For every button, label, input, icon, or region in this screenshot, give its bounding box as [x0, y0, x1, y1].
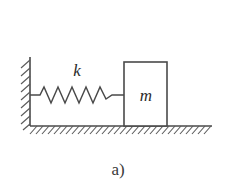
mass-label: m: [140, 86, 152, 105]
wall-hatched-icon: [21, 57, 30, 130]
figure-container: k m a): [0, 0, 231, 185]
spring-polyline: [30, 87, 124, 103]
ground-hatch-group: [30, 126, 211, 134]
spring-coil-icon: [30, 87, 124, 103]
figure-caption: a): [111, 160, 124, 179]
wall-hatch-group: [21, 60, 30, 130]
ground-hatched-icon: [30, 126, 212, 134]
spring-constant-label: k: [73, 61, 81, 80]
mass-spring-diagram: k m a): [0, 0, 231, 185]
